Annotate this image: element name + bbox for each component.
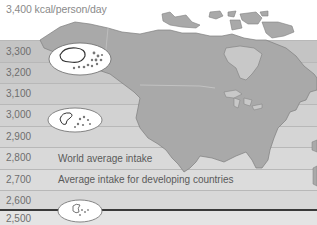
world-average-label: World average intake	[58, 153, 152, 164]
medium-plate-icon	[48, 108, 102, 132]
chart-title: 3,400 kcal/person/day	[6, 3, 107, 15]
large-plate-icon	[49, 43, 111, 75]
small-plate-icon	[58, 200, 102, 222]
y-tick-3000: 3,000	[6, 109, 31, 120]
y-tick-3100: 3,100	[6, 88, 31, 99]
y-tick-2800: 2,800	[6, 152, 31, 163]
y-tick-2600: 2,600	[6, 195, 31, 206]
y-tick-3300: 3,300	[6, 46, 31, 57]
y-tick-2700: 2,700	[6, 174, 31, 185]
y-tick-2500: 2,500	[6, 213, 31, 224]
developing-countries-label: Average intake for developing countries	[58, 174, 233, 185]
calorie-intake-chart: 3,400 kcal/person/day 3,300 3,200 3,100 …	[0, 0, 317, 225]
y-tick-2900: 2,900	[6, 131, 31, 142]
food-plates	[0, 0, 317, 225]
y-tick-3200: 3,200	[6, 67, 31, 78]
